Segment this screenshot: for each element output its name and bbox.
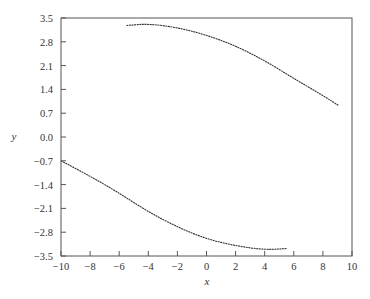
- y-tick-label: −2.8: [34, 227, 53, 238]
- x-tick-label: −2: [172, 261, 183, 272]
- y-tick-label: −2.1: [34, 203, 53, 214]
- chart: −10−8−6−4−20246810 3.52.82.11.40.70.0−0.…: [0, 0, 370, 299]
- x-tick-label: 8: [320, 261, 325, 272]
- y-tick-label: −3.5: [34, 251, 53, 262]
- y-tick-label: 3.5: [40, 13, 53, 24]
- x-tick-label: 6: [291, 261, 296, 272]
- y-tick-label: 2.1: [40, 61, 53, 72]
- x-tick-label: −6: [114, 261, 125, 272]
- data-series: [61, 24, 339, 249]
- curve-upper-branch: [126, 24, 338, 105]
- x-tick-label: 4: [262, 261, 268, 272]
- x-axis: −10−8−6−4−20246810: [53, 251, 357, 272]
- y-axis-label: y: [11, 130, 17, 142]
- x-tick-label: 10: [347, 261, 358, 272]
- curve-lower-branch: [61, 161, 287, 250]
- x-tick-label: 0: [204, 261, 209, 272]
- y-tick-label: −0.7: [34, 156, 53, 167]
- y-tick-label: 2.8: [40, 37, 53, 48]
- y-tick-label: −1.4: [34, 180, 54, 191]
- y-tick-label: 1.4: [40, 84, 54, 95]
- x-tick-label: −10: [53, 261, 69, 272]
- x-tick-label: 2: [233, 261, 238, 272]
- y-tick-label: 0.0: [40, 132, 53, 143]
- x-tick-label: −4: [143, 261, 155, 272]
- plot-frame: [61, 18, 352, 256]
- y-tick-label: 0.7: [40, 108, 53, 119]
- x-tick-label: −8: [85, 261, 96, 272]
- x-axis-label: x: [204, 275, 210, 287]
